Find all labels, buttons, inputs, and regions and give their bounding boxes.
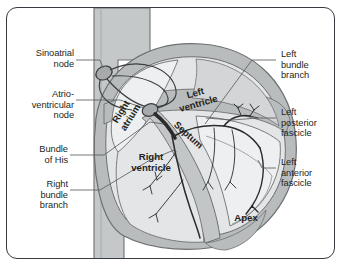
label-line: Left xyxy=(281,49,339,60)
label-right-ventricle: Right ventricle xyxy=(122,152,180,174)
label-line: node xyxy=(6,59,74,70)
label-line: ventricle xyxy=(122,163,180,174)
label-line: ventricular xyxy=(2,100,74,111)
label-sinoatrial-node: Sinoatrial node xyxy=(6,48,74,69)
label-line: fascicle xyxy=(281,128,339,139)
label-atrioventricular-node: Atrio- ventricular node xyxy=(2,89,74,121)
label-line: branch xyxy=(281,70,339,81)
label-line: Bundle xyxy=(6,144,68,155)
label-line: Sinoatrial xyxy=(6,48,74,59)
figure-canvas: Sinoatrial node Atrio- ventricular node … xyxy=(0,0,342,267)
label-left-posterior-fascicle: Left posterior fascicle xyxy=(281,107,339,139)
label-line: anterior xyxy=(281,168,339,179)
label-left-bundle-branch: Left bundle branch xyxy=(281,49,339,81)
label-line: Apex xyxy=(228,213,264,224)
label-line: Left xyxy=(281,107,339,118)
label-line: node xyxy=(2,110,74,121)
label-line: Left xyxy=(281,157,339,168)
label-right-bundle-branch: Right bundle branch xyxy=(6,179,68,211)
label-line: branch xyxy=(6,200,68,211)
label-line: Right xyxy=(6,179,68,190)
label-apex: Apex xyxy=(228,213,264,224)
label-line: fascicle xyxy=(281,178,339,189)
label-line: Atrio- xyxy=(2,89,74,100)
label-line: bundle xyxy=(6,190,68,201)
label-line: of His xyxy=(6,155,68,166)
label-bundle-of-his: Bundle of His xyxy=(6,144,68,165)
label-line: posterior xyxy=(281,118,339,129)
label-left-anterior-fascicle: Left anterior fascicle xyxy=(281,157,339,189)
label-line: bundle xyxy=(281,60,339,71)
